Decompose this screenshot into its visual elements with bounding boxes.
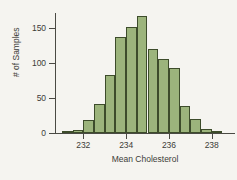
plot-area: [55, 10, 233, 133]
y-axis-tick-label: 0: [0, 129, 46, 138]
x-axis-line: [55, 133, 235, 134]
x-axis-tick: [126, 134, 127, 139]
histogram-bar: [126, 27, 137, 133]
histogram-figure: 050100150 232234236238 Mean Cholesterol …: [0, 0, 237, 180]
histogram-bar: [158, 59, 169, 133]
histogram-bar: [180, 106, 191, 133]
y-axis-tick-label: 50: [0, 94, 46, 103]
histogram-bar: [148, 49, 159, 133]
x-axis-tick-label: 238: [197, 141, 227, 150]
bars-layer: [55, 10, 233, 133]
x-axis-tick-label: 232: [68, 141, 98, 150]
y-axis-tick: [49, 28, 55, 29]
y-axis-tick: [49, 98, 55, 99]
y-axis-line: [55, 13, 56, 134]
histogram-bar: [190, 119, 201, 133]
y-axis-title: # of Samples: [12, 12, 21, 92]
x-axis-tick: [169, 134, 170, 139]
y-axis-tick: [49, 63, 55, 64]
histogram-bar: [115, 37, 126, 133]
histogram-bar: [137, 16, 148, 133]
histogram-bar: [94, 104, 105, 133]
histogram-bar: [105, 75, 116, 133]
x-axis-title: Mean Cholesterol: [55, 155, 235, 164]
x-axis-tick: [212, 134, 213, 139]
y-axis-tick: [49, 133, 55, 134]
x-axis-tick-label: 236: [154, 141, 184, 150]
histogram-bar: [169, 68, 180, 133]
y-axis-tick-label: 150: [0, 23, 46, 32]
y-axis-tick-label: 100: [0, 59, 46, 68]
histogram-bar: [83, 120, 94, 133]
x-axis-tick-label: 234: [111, 141, 141, 150]
x-axis-tick: [83, 134, 84, 139]
